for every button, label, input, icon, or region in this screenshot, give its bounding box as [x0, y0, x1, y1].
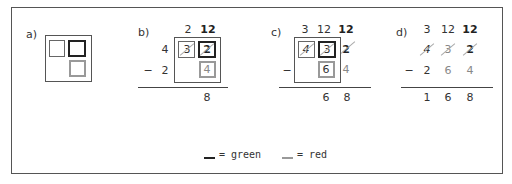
plain-box [49, 40, 65, 57]
carry-digit: 12 [200, 24, 216, 36]
subtrahend-digit: 4 [338, 64, 354, 76]
subtrahend-digit: 6 [318, 64, 334, 76]
minus-sign: − [140, 65, 156, 77]
carry-digit: 12 [462, 24, 478, 36]
result-digit: 6 [318, 92, 334, 104]
carry-digit: 12 [440, 24, 456, 36]
legend-red-label: = red [297, 149, 327, 161]
legend-green-label: = green [219, 149, 261, 161]
subtrahend-digit: 6 [440, 65, 456, 77]
subtrahend-digit: 4 [199, 64, 215, 76]
carry-digit: 12 [338, 24, 354, 36]
green-box [68, 40, 86, 57]
panel-label: b) [138, 27, 149, 39]
panel-label: a) [26, 29, 37, 41]
minuend-digit: 2 [338, 44, 354, 56]
carry-digit: 12 [316, 24, 332, 36]
subtrahend-digit: 2 [419, 65, 435, 77]
sum-line [401, 87, 493, 88]
green-swatch-icon [204, 157, 215, 159]
carry-digit: 3 [419, 24, 435, 36]
result-digit: 8 [462, 92, 478, 104]
sum-line [138, 87, 228, 88]
result-digit: 8 [339, 92, 355, 104]
subtrahend-digit: 2 [157, 65, 173, 77]
minuend-digit: 4 [157, 44, 173, 56]
red-swatch-icon [282, 157, 293, 159]
carry-digit: 2 [180, 24, 196, 36]
red-box [69, 60, 86, 77]
panel-label: c) [271, 27, 281, 39]
result-digit: 6 [440, 92, 456, 104]
result-digit: 8 [199, 92, 215, 104]
minus-sign: − [279, 65, 295, 77]
minus-sign: − [401, 65, 417, 77]
sum-line [279, 87, 371, 88]
carry-digit: 3 [297, 24, 313, 36]
panel-label: d) [396, 27, 407, 39]
result-digit: 1 [419, 92, 435, 104]
subtrahend-digit: 4 [462, 65, 478, 77]
